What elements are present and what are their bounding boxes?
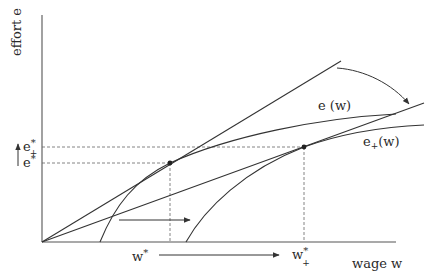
e-plus-star-sup: * [31, 137, 36, 148]
e-star-label: e* [23, 153, 36, 170]
w-star-base: w [132, 249, 143, 264]
w-plus-star-sup: * [303, 245, 308, 256]
ray-steep [42, 61, 341, 242]
x-axis-label: wage w [352, 256, 402, 271]
w-plus-star-label: w*+ [292, 245, 310, 268]
curve-e-plus-label: e+(w) [363, 134, 400, 151]
curve-e-plus-label-sub: + [371, 141, 379, 151]
w-plus-star-sub: + [302, 258, 310, 268]
w-star-label: w* [132, 247, 148, 264]
curve-e-plus-label-rest: (w) [378, 134, 399, 149]
curve-e-label: e (w) [318, 98, 351, 113]
ray-shallow [42, 103, 424, 242]
tangent-point-e-plus-star [302, 145, 307, 150]
y-axis-label: effort e [9, 8, 24, 56]
tangent-point-e-star [168, 161, 173, 166]
effort-wage-chart: effort e wage w e (w) e+(w) e*+ e* w* w*… [0, 0, 438, 276]
w-star-sup: * [143, 247, 148, 258]
e-star-sup: * [31, 153, 36, 164]
